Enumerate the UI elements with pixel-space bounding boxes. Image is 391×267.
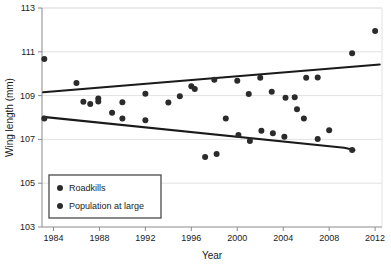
- data-point-s0-14: [294, 106, 300, 112]
- y-axis-title: Wing length (mm): [4, 78, 15, 157]
- data-point-s0-1: [73, 80, 79, 86]
- data-point-s0-16: [315, 74, 321, 80]
- y-tick-label-113: 113: [21, 3, 35, 13]
- x-tick-label-2004: 2004: [273, 233, 293, 243]
- x-tick-label-1988: 1988: [89, 233, 109, 243]
- data-point-s0-10: [257, 75, 263, 81]
- data-point-s1-0: [41, 116, 47, 122]
- data-point-s0-3: [119, 99, 125, 105]
- x-tick-label-2000: 2000: [227, 233, 247, 243]
- data-point-s1-10: [214, 151, 220, 157]
- x-tick-label-1992: 1992: [135, 233, 155, 243]
- data-point-s0-8: [234, 78, 240, 84]
- data-point-s1-15: [270, 130, 276, 136]
- data-point-s0-17: [349, 50, 355, 56]
- x-tick-label-1984: 1984: [43, 233, 63, 243]
- legend-box: [49, 175, 161, 218]
- legend-marker-1: [57, 203, 63, 209]
- trendline-0: [43, 65, 380, 93]
- x-tick-label-2008: 2008: [319, 233, 339, 243]
- data-point-s1-20: [349, 147, 355, 153]
- data-point-s0-9: [246, 91, 252, 97]
- data-point-s1-5: [119, 116, 125, 122]
- data-point-s0-18: [372, 28, 378, 34]
- scatter-plot-svg: 1031051071091111131984198819921996200020…: [0, 0, 391, 267]
- y-tick-label-103: 103: [20, 222, 35, 232]
- data-point-s1-7: [165, 100, 171, 106]
- data-point-s0-13: [292, 94, 298, 100]
- data-point-s0-0: [41, 56, 47, 62]
- x-tick-label-2012: 2012: [365, 233, 385, 243]
- data-point-s1-11: [223, 116, 229, 122]
- data-point-s1-1: [80, 99, 86, 105]
- y-tick-label-105: 105: [20, 178, 35, 188]
- data-point-s0-5: [177, 93, 183, 99]
- data-point-s1-16: [281, 134, 287, 140]
- data-point-s1-14: [258, 128, 264, 134]
- data-point-s1-17: [301, 116, 307, 122]
- legend-label-1: Population at large: [69, 201, 144, 211]
- y-tick-label-107: 107: [20, 134, 35, 144]
- data-point-s1-9: [202, 154, 208, 160]
- legend-label-0: Roadkills: [69, 183, 106, 193]
- data-point-s1-13: [247, 138, 253, 144]
- data-point-s1-12: [235, 132, 241, 138]
- data-point-s1-8: [192, 86, 198, 92]
- data-point-s1-18: [315, 136, 321, 142]
- trendline-1: [43, 117, 354, 150]
- data-point-s1-19: [326, 127, 332, 133]
- chart-figure: 1031051071091111131984198819921996200020…: [0, 0, 391, 267]
- y-tick-label-111: 111: [21, 47, 35, 57]
- data-point-s1-4: [109, 110, 115, 116]
- data-point-s0-7: [211, 77, 217, 83]
- data-point-s1-6: [142, 117, 148, 123]
- legend-marker-0: [57, 185, 63, 191]
- x-tick-label-1996: 1996: [181, 233, 201, 243]
- data-point-s1-3: [95, 99, 101, 105]
- x-axis-title: Year: [202, 250, 223, 261]
- y-tick-label-109: 109: [20, 91, 35, 101]
- data-point-s0-12: [283, 95, 289, 101]
- data-point-s1-2: [87, 101, 93, 107]
- data-point-s0-11: [269, 89, 275, 95]
- data-point-s0-15: [303, 75, 309, 81]
- data-point-s0-4: [142, 91, 148, 97]
